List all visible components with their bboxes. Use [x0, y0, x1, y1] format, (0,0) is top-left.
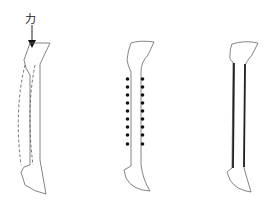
dot-row-left	[126, 77, 130, 146]
panel-c	[227, 42, 258, 192]
force-arrow-head	[28, 40, 36, 48]
panel-b	[124, 41, 154, 191]
bone-outline	[227, 42, 258, 192]
bone-outline	[124, 41, 154, 191]
thick-wall-right	[244, 64, 245, 167]
bend-outline-left	[18, 65, 25, 165]
panel-a	[18, 25, 50, 194]
bend-outline-right	[30, 65, 35, 165]
bone-outline	[21, 43, 50, 194]
thick-wall-left	[233, 63, 234, 168]
diagram-canvas	[0, 0, 274, 205]
dot-row-right	[141, 77, 145, 146]
